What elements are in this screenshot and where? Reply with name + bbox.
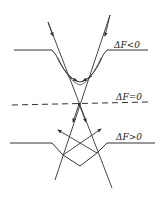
ray-left-arrow-top <box>48 22 53 36</box>
surface-negative-outline <box>14 50 148 82</box>
surface-negative <box>14 50 148 85</box>
ray-right-arrow-mid <box>73 104 79 122</box>
ray-right-arrow-top <box>105 15 110 36</box>
rays <box>48 15 112 188</box>
focus-point <box>78 103 80 105</box>
ray-left-arrow-mid <box>79 104 86 122</box>
label-delta-f-positive: ΔF>0 <box>116 132 142 142</box>
surface-positive <box>10 143 155 166</box>
label-delta-f-zero: ΔF=0 <box>116 92 142 102</box>
label-delta-f-negative: ΔF<0 <box>114 40 140 50</box>
reflected-ray-right <box>63 129 101 155</box>
